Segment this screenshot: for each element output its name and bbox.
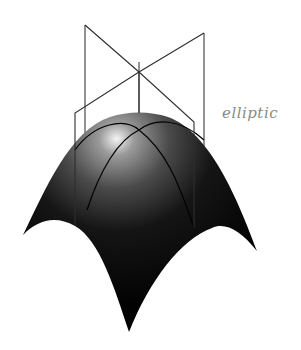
elliptic-surface-illustration [0,0,301,350]
elliptic-label: elliptic [222,104,278,122]
elliptic-dome [23,113,257,333]
diagram-canvas: elliptic [0,0,301,350]
